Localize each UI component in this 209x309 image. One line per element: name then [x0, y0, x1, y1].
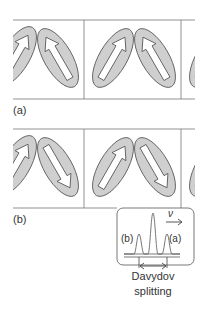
panel-a-label: (a): [13, 104, 26, 116]
panel-b-label: (b): [13, 213, 26, 225]
davydov-diagram: [0, 0, 209, 309]
caption-line2: splitting: [113, 285, 193, 297]
frequency-axis-label: ν: [168, 208, 173, 219]
panel-a-lattice: [0, 20, 209, 93]
peak-a-label: (a): [169, 233, 181, 244]
peak-b-label: (b): [121, 233, 133, 244]
caption-line1: Davydov: [113, 270, 193, 282]
panel-b-lattice: [0, 129, 209, 202]
